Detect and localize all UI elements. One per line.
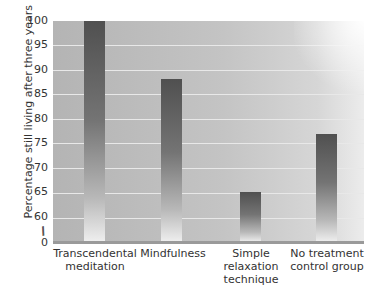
x-axis-line (53, 241, 364, 244)
x-label-mindfulness: Mindfulness (128, 247, 218, 260)
bar-no-treatment (316, 134, 337, 242)
x-label-line: control group (282, 260, 372, 273)
y-tick: 70 (22, 162, 48, 174)
bar-mindfulness (161, 79, 182, 242)
y-tick: 80 (22, 113, 48, 125)
x-label-line: meditation (50, 260, 140, 273)
y-tick: 75 (22, 137, 48, 149)
bar-transcendental-meditation (84, 21, 105, 242)
y-tick: 65 (22, 186, 48, 198)
x-label-line: No treatment (282, 247, 372, 260)
y-tick: 85 (22, 88, 48, 100)
y-tick: 90 (22, 64, 48, 76)
y-tick: 100 (22, 15, 48, 27)
y-tick: 0 (22, 237, 48, 249)
y-tick: 95 (22, 39, 48, 51)
plot-area (53, 21, 364, 243)
axis-break-icon: // (39, 225, 45, 238)
bar-simple-relaxation (240, 192, 261, 242)
x-label-line: Transcendental (50, 247, 140, 260)
x-label-line: Mindfulness (128, 247, 218, 260)
x-label-no-treatment: No treatment control group (282, 247, 372, 273)
x-label-line: technique (206, 273, 296, 286)
x-label-transcendental-meditation: Transcendental meditation (50, 247, 140, 273)
y-tick: 60 (22, 211, 48, 223)
